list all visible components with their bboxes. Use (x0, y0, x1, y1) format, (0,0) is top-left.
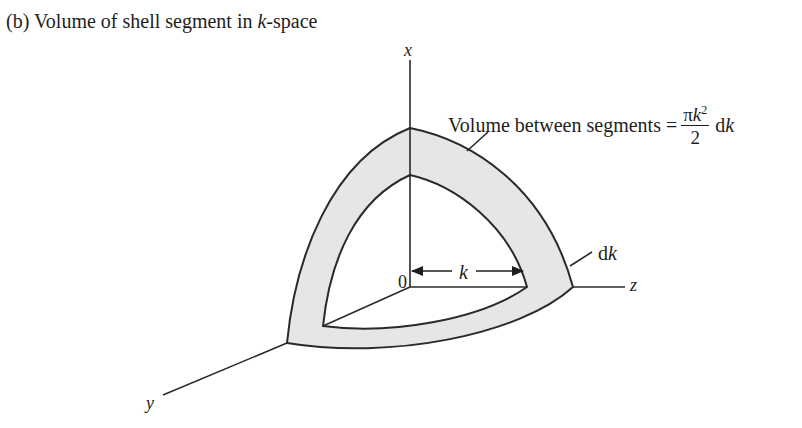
formula-denominator: 2 (690, 126, 700, 147)
formula-numerator: πk2 (681, 104, 709, 126)
volume-annotation: Volume between segments = πk2 2 dk (448, 104, 734, 147)
shell-thickness-label: dk (598, 242, 617, 265)
y-axis-label: y (146, 393, 154, 414)
x-axis-label: x (404, 40, 412, 61)
pi-symbol: π (683, 104, 693, 125)
shell-segment-diagram (0, 0, 802, 428)
origin-label: 0 (398, 272, 407, 293)
suffix-variable: k (725, 114, 734, 136)
numerator-exponent: 2 (701, 103, 707, 117)
radius-label: k (459, 261, 468, 284)
volume-text: Volume between segments = (448, 114, 677, 137)
numerator-variable: k (693, 104, 701, 125)
shell-segment (287, 128, 573, 348)
y-axis-inner (323, 287, 410, 326)
volume-formula-fraction: πk2 2 (681, 104, 709, 147)
y-axis-outer (163, 343, 287, 395)
suffix-d: d (715, 114, 725, 136)
dk-leader-line (570, 252, 592, 266)
thickness-d: d (598, 242, 608, 264)
z-axis-label: z (630, 275, 637, 296)
formula-suffix: dk (715, 114, 734, 137)
thickness-variable: k (608, 242, 617, 264)
